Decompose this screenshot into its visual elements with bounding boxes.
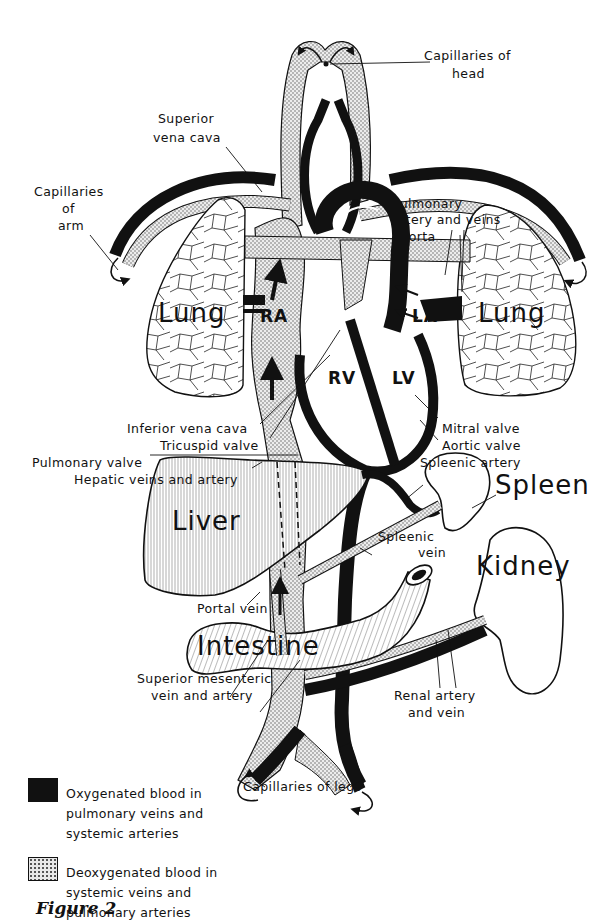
label-capillaries-head-1: Capillaries of bbox=[424, 48, 511, 63]
oxygenated-swatch bbox=[28, 778, 58, 802]
legend-oxy-line3: systemic arteries bbox=[66, 824, 266, 844]
label-aortic-valve: Aortic valve bbox=[442, 438, 521, 453]
label-portal-vein: Portal vein bbox=[197, 601, 268, 616]
head-capillary-dot bbox=[324, 62, 329, 67]
label-capillaries-arm-1: Capillaries bbox=[34, 184, 104, 199]
legend-oxy-line1: Oxygenated blood in bbox=[66, 784, 266, 804]
label-superior-vena-cava-1: Superior bbox=[158, 111, 215, 126]
label-mitral-valve: Mitral valve bbox=[442, 421, 520, 436]
label-pulmonary-valve: Pulmonary valve bbox=[32, 455, 142, 470]
label-intestine: Intestine bbox=[197, 631, 320, 661]
label-spleenic-artery: Spleenic artery bbox=[420, 455, 521, 470]
label-capillaries-arm-3: arm bbox=[58, 218, 84, 233]
legend-deoxy-line1: Deoxygenated blood in bbox=[66, 863, 266, 883]
label-renal-1: Renal artery bbox=[394, 688, 476, 703]
label-spleenic-vein-2: vein bbox=[418, 545, 446, 560]
label-spleen: Spleen bbox=[495, 470, 590, 500]
label-superior-mesenteric-1: Superior mesenteric bbox=[137, 671, 272, 686]
label-rv: RV bbox=[328, 368, 356, 388]
legend-text-oxygenated: Oxygenated blood in pulmonary veins and … bbox=[66, 784, 266, 844]
label-inferior-vena-cava: Inferior vena cava bbox=[127, 421, 248, 436]
label-la: LA bbox=[412, 306, 438, 326]
label-superior-mesenteric-2: vein and artery bbox=[151, 688, 253, 703]
label-kidney: Kidney bbox=[476, 551, 571, 581]
label-superior-vena-cava-2: vena cava bbox=[153, 130, 221, 145]
label-aorta: Aorta bbox=[400, 229, 436, 244]
label-lv: LV bbox=[392, 368, 416, 388]
label-capillaries-head-2: head bbox=[452, 66, 485, 81]
label-ra: RA bbox=[260, 306, 288, 326]
label-renal-2: and vein bbox=[408, 705, 465, 720]
label-lung-right: Lung bbox=[478, 298, 546, 328]
label-tricuspid-valve: Tricuspid valve bbox=[159, 438, 259, 453]
legend-oxy-line2: pulmonary veins and bbox=[66, 804, 266, 824]
label-liver: Liver bbox=[172, 506, 241, 536]
label-pulmonary-2: artery and veins bbox=[392, 212, 501, 227]
figure-caption: Figure 2 bbox=[36, 898, 116, 918]
label-capillaries-arm-2: of bbox=[62, 201, 75, 216]
label-pulmonary-1: Pulmonary bbox=[392, 196, 462, 211]
label-spleenic-vein-1: Spleenic bbox=[378, 529, 434, 544]
label-lung-left: Lung bbox=[158, 298, 226, 328]
label-hepatic-veins: Hepatic veins and artery bbox=[74, 472, 238, 487]
deoxygenated-swatch bbox=[28, 857, 58, 881]
